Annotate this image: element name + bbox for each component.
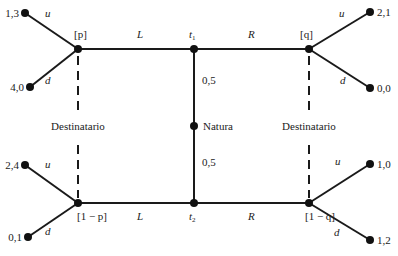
node-type-t2 bbox=[190, 199, 198, 207]
type-label-t1: t1 bbox=[189, 28, 196, 42]
nature-prob-bottom: 0,5 bbox=[202, 156, 216, 168]
belief-bottom-right: [1 − q] bbox=[305, 210, 335, 222]
terminal-bottom-left-u bbox=[21, 161, 29, 169]
node-type-t1 bbox=[190, 45, 198, 53]
terminal-bottom-right-d bbox=[366, 236, 374, 244]
payoff-top-left-d: 4,0 bbox=[10, 81, 24, 93]
terminal-top-left-d bbox=[26, 83, 34, 91]
payoff-top-right-d: 0,0 bbox=[377, 82, 391, 94]
action-label-bottom-right-d: d bbox=[334, 226, 340, 238]
terminal-bottom-left-d bbox=[24, 233, 32, 241]
nature-prob-top: 0,5 bbox=[202, 74, 216, 86]
belief-bottom-left: [1 − p] bbox=[77, 210, 107, 222]
nature-label: Natura bbox=[203, 120, 233, 132]
game-tree-diagram: 1,3 4,0 2,1 0,0 2,4 0,1 1,0 1,2 u d u d … bbox=[0, 0, 398, 256]
sender-action-bottom-right: R bbox=[247, 210, 255, 222]
payoff-bottom-right-d: 1,2 bbox=[377, 234, 391, 246]
receiver-label-right: Destinatario bbox=[282, 120, 336, 132]
belief-top-left: [p] bbox=[74, 28, 87, 40]
type-label-t2: t2 bbox=[189, 210, 196, 224]
belief-top-right: [q] bbox=[300, 28, 313, 40]
payoff-bottom-right-u: 1,0 bbox=[377, 158, 391, 170]
payoff-bottom-left-d: 0,1 bbox=[8, 231, 22, 243]
sender-action-top-left: L bbox=[136, 28, 143, 40]
terminal-top-right-d bbox=[366, 84, 374, 92]
action-label-bottom-left-d: d bbox=[45, 225, 51, 237]
node-receiver-bottom-left bbox=[74, 199, 82, 207]
node-receiver-top-right bbox=[305, 45, 313, 53]
edge-bottom-left-d bbox=[28, 203, 78, 237]
action-label-top-left-u: u bbox=[45, 7, 51, 19]
action-label-top-right-d: d bbox=[340, 74, 346, 86]
terminal-bottom-right-u bbox=[366, 160, 374, 168]
sender-action-top-right: R bbox=[247, 28, 255, 40]
edge-bottom-left-u bbox=[25, 165, 78, 203]
receiver-label-left: Destinatario bbox=[51, 120, 105, 132]
edge-bottom-right-u bbox=[309, 164, 370, 203]
payoff-bottom-left-u: 2,4 bbox=[5, 159, 19, 171]
payoff-top-right-u: 2,1 bbox=[377, 6, 391, 18]
node-receiver-bottom-right bbox=[305, 199, 313, 207]
payoff-top-left-u: 1,3 bbox=[5, 7, 19, 19]
edge-top-left-u bbox=[25, 13, 78, 49]
action-label-top-right-u: u bbox=[339, 7, 345, 19]
node-nature bbox=[190, 122, 198, 130]
sender-action-bottom-left: L bbox=[136, 210, 143, 222]
action-label-bottom-left-u: u bbox=[45, 158, 51, 170]
action-label-top-left-d: d bbox=[45, 74, 51, 86]
action-label-bottom-right-u: u bbox=[335, 155, 341, 167]
node-receiver-top-left bbox=[74, 45, 82, 53]
terminal-top-left-u bbox=[21, 9, 29, 17]
edge-top-left-d bbox=[30, 49, 78, 87]
terminal-top-right-u bbox=[366, 8, 374, 16]
